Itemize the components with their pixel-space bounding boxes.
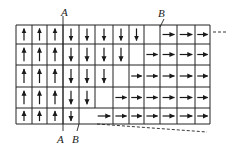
dashed-line-bottom	[97, 124, 207, 132]
domain-wall-diagram: A B A B	[0, 0, 232, 155]
label-b-bottom: B	[72, 133, 79, 145]
label-a-top: A	[60, 6, 68, 18]
grid-lines	[16, 25, 210, 124]
label-b-top: B	[158, 7, 165, 19]
wall-b-bottom-tick	[77, 124, 79, 131]
magnetization-arrows	[24, 28, 208, 121]
wall-b-top-tick	[160, 19, 164, 27]
label-a-bottom: A	[56, 133, 64, 145]
